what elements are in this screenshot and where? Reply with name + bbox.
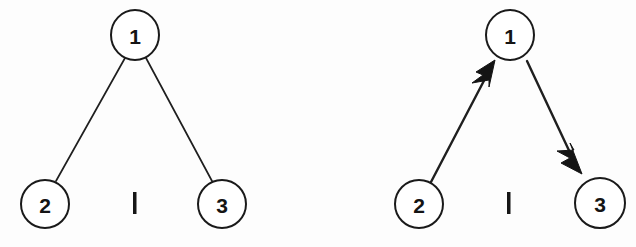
edge-node1-to-node3-directed-shaft [527, 61, 573, 159]
figure-canvas: 1 2 3 [0, 0, 636, 247]
node-1-left[interactable]: 1 [111, 10, 159, 60]
node-1-right[interactable]: 1 [486, 10, 534, 60]
edge-node1-node3-undirected [146, 58, 212, 181]
node-2-right-label: 2 [413, 194, 425, 217]
right-panel-tick-mark [507, 192, 511, 214]
arrowhead-into-node3-icon [557, 143, 582, 174]
node-2-left-label: 2 [39, 194, 51, 217]
node-1-left-label: 1 [129, 25, 141, 48]
node-3-left-label: 3 [216, 194, 228, 217]
edge-node1-node2-undirected [56, 58, 125, 181]
node-2-right[interactable]: 2 [395, 180, 443, 228]
right-panel-directed-graph: 1 2 3 [395, 10, 625, 228]
node-3-right-label: 3 [594, 193, 606, 216]
node-2-left[interactable]: 2 [21, 180, 69, 228]
node-3-left[interactable]: 3 [198, 180, 246, 228]
graph-figure-svg: 1 2 3 [0, 0, 636, 247]
left-panel-tick-mark [133, 192, 137, 214]
left-panel-undirected-graph: 1 2 3 [21, 10, 246, 228]
edge-node2-to-node1-directed-shaft [431, 73, 488, 182]
node-3-right[interactable]: 3 [575, 178, 625, 228]
node-1-right-label: 1 [504, 25, 516, 48]
